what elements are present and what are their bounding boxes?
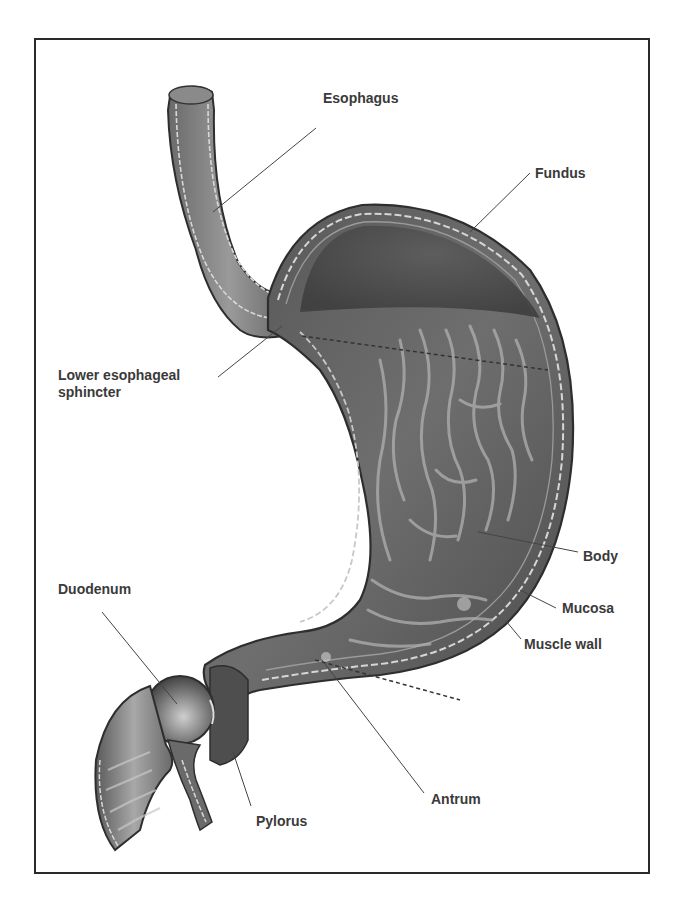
label-esophagus: Esophagus (323, 90, 398, 107)
leader-esophagus (213, 128, 316, 212)
label-mucosa: Mucosa (562, 600, 614, 617)
leader-antrum (322, 660, 424, 793)
leader-pylorus (233, 752, 251, 806)
label-les-line1: Lower esophageal (58, 367, 180, 383)
leader-fundus (470, 173, 530, 232)
label-antrum: Antrum (431, 791, 481, 808)
stomach-shape (204, 205, 573, 715)
leader-muscle-wall (506, 621, 521, 639)
label-pylorus: Pylorus (256, 813, 307, 830)
label-duodenum: Duodenum (58, 581, 131, 598)
label-les-line2: sphincter (58, 384, 121, 400)
label-lower-esophageal-sphincter: Lower esophageal sphincter (58, 367, 208, 401)
label-body: Body (583, 548, 618, 565)
label-fundus: Fundus (535, 165, 586, 182)
label-muscle-wall: Muscle wall (524, 636, 602, 653)
duodenum-shape (95, 666, 248, 850)
stomach-illustration (0, 0, 676, 903)
